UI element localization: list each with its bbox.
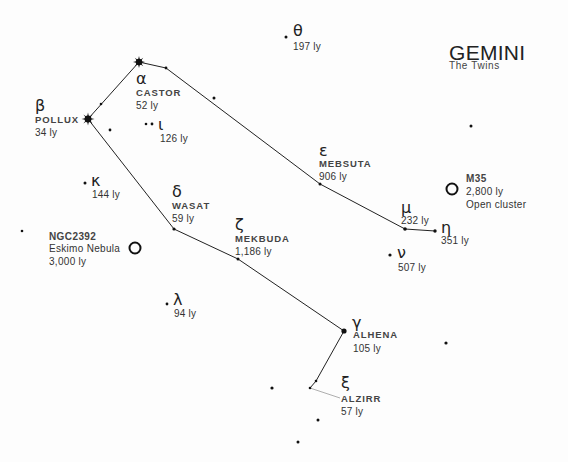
ngc2392-distance: 3,000 ly: [49, 257, 86, 267]
star-delta-symbol: δ: [172, 184, 182, 200]
ngc2392-nebula-icon: [130, 243, 141, 254]
star-alpha-distance: 52 ly: [136, 101, 158, 111]
star-beta-symbol: β: [35, 98, 45, 114]
star-theta-symbol: θ: [293, 23, 303, 39]
field-star: [145, 123, 148, 126]
line-castor-mebsuta: [139, 62, 166, 68]
star-kappa-dot: [84, 182, 87, 185]
star-mu-symbol: μ: [401, 200, 411, 216]
field-star: [21, 230, 24, 233]
field-star: [297, 441, 300, 444]
ngc2392-name: NGC2392: [49, 232, 96, 242]
star-xi-symbol: ξ: [341, 375, 350, 391]
star-nu-dot: [388, 253, 391, 256]
line-castor-mebsuta-2: [166, 68, 320, 184]
star-epsilon-dot: [319, 183, 322, 186]
star-xi-distance: 57 ly: [341, 407, 363, 417]
star-gamma-distance: 105 ly: [353, 344, 381, 354]
star-delta-dot: [172, 227, 175, 230]
star-lambda-symbol: λ: [173, 292, 182, 308]
star-beta-distance: 34 ly: [35, 128, 57, 138]
line-castor-pollux: [88, 62, 139, 119]
constellation-subtitle: The Twins: [449, 61, 500, 71]
field-star: [109, 129, 112, 132]
star-castor-icon: [133, 56, 145, 68]
star-mu-distance: 232 ly: [401, 216, 429, 226]
star-lambda-dot: [166, 303, 169, 306]
star-lambda-distance: 94 ly: [174, 309, 196, 319]
field-star: [470, 125, 473, 128]
line-mebsuta-mu: [320, 184, 405, 229]
line-mu-eta: [405, 229, 435, 231]
star-gamma-dot: [341, 328, 346, 333]
star-kappa-distance: 144 ly: [92, 190, 120, 200]
star-epsilon-symbol: ε: [319, 143, 328, 159]
star-delta-distance: 59 ly: [172, 214, 194, 224]
star-kappa-symbol: κ: [91, 173, 100, 189]
star-gamma-name: ALHENA: [353, 330, 398, 340]
star-mu-dot: [403, 227, 407, 231]
star-beta-name: POLLUX: [35, 115, 79, 125]
star-zeta-name: MEKBUDA: [235, 234, 290, 244]
star-alpha-symbol: α: [136, 71, 147, 87]
star-alpha-name: CASTOR: [136, 88, 181, 98]
field-star: [165, 67, 168, 70]
line-alhena-alzirr: [316, 331, 344, 381]
line-mekbuda-alhena: [238, 259, 344, 331]
star-delta-name: WASAT: [172, 201, 210, 211]
m35-name: M35: [466, 174, 487, 184]
line-wasat-mekbuda: [174, 229, 238, 259]
ngc2392-type: Eskimo Nebula: [49, 244, 120, 254]
star-pollux-icon: [82, 113, 95, 126]
star-nu-distance: 507 ly: [398, 263, 426, 273]
star-zeta-symbol: ζ: [235, 217, 244, 233]
star-epsilon-distance: 906 ly: [319, 172, 347, 182]
field-star: [317, 419, 320, 422]
star-theta-dot: [285, 36, 288, 39]
star-iota-symbol: ι: [158, 117, 163, 133]
star-epsilon-name: MEBSUTA: [319, 159, 372, 169]
m35-type: Open cluster: [466, 200, 526, 210]
star-zeta-dot: [237, 258, 240, 261]
line-alzirr-short: [310, 381, 316, 388]
field-star: [444, 341, 447, 344]
field-star: [270, 386, 273, 389]
star-iota-dot: [151, 123, 154, 126]
star-xi-dot: [309, 387, 312, 390]
star-nu-symbol: ν: [397, 245, 406, 261]
star-eta-symbol: η: [441, 220, 451, 236]
field-star: [100, 103, 103, 106]
star-iota-distance: 126 ly: [160, 134, 188, 144]
m35-distance: 2,800 ly: [466, 187, 503, 197]
star-theta-distance: 197 ly: [293, 42, 321, 52]
field-star: [213, 97, 216, 100]
star-eta-dot: [433, 229, 436, 232]
star-xi-name: ALZIRR: [341, 394, 381, 404]
star-eta-distance: 351 ly: [441, 236, 469, 246]
m35-cluster-icon: [447, 184, 458, 195]
pointer-line-alzirr: [310, 388, 340, 398]
star-zeta-distance: 1,186 ly: [235, 247, 272, 257]
field-star: [315, 380, 318, 383]
